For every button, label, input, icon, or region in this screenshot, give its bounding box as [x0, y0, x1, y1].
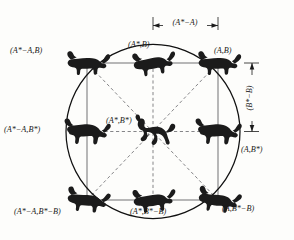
specimen-top-center-icon: [132, 48, 178, 78]
dimension-vertical-label: (B*−B): [245, 85, 254, 110]
dimension-vertical-arrow-top: [250, 63, 255, 70]
label-middle-right: (A,B*): [241, 145, 263, 154]
specimen-center-icon: [136, 115, 176, 145]
dimension-horizontal: (A*−A): [153, 17, 218, 30]
label-bottom-left: (A*−A,B*−B): [14, 207, 61, 216]
specimen-group: [65, 48, 243, 215]
label-bottom-center: (A*,B*−B): [130, 207, 166, 216]
label-top-center: (A*,B): [128, 40, 150, 49]
dimension-horizontal-label: (A*−A): [172, 18, 197, 27]
label-top-left: (A*−A,B): [10, 46, 42, 55]
specimen-middle-right-icon: [196, 118, 242, 144]
diagram-canvas: (A*−A) (B*−B) (A*−A,B) (A*,B) (A,B) (A*−…: [0, 0, 294, 240]
label-middle-left: (A*−A,B*): [4, 125, 40, 134]
label-bottom-right: (A,B*−B): [222, 204, 254, 213]
dimension-horizontal-arrow-left: [153, 23, 160, 28]
label-top-right: (A,B): [214, 46, 232, 55]
dimension-vertical-arrow-bottom: [250, 125, 255, 132]
specimen-top-left-icon: [67, 51, 110, 75]
label-center: (A*,B*): [106, 116, 132, 125]
dimension-horizontal-arrow-right: [212, 23, 219, 28]
figure-root: (A*−A) (B*−B) (A*−A,B) (A*,B) (A,B) (A*−…: [0, 0, 294, 240]
dimension-vertical: (B*−B): [244, 63, 259, 132]
specimen-middle-left-icon: [65, 118, 111, 144]
